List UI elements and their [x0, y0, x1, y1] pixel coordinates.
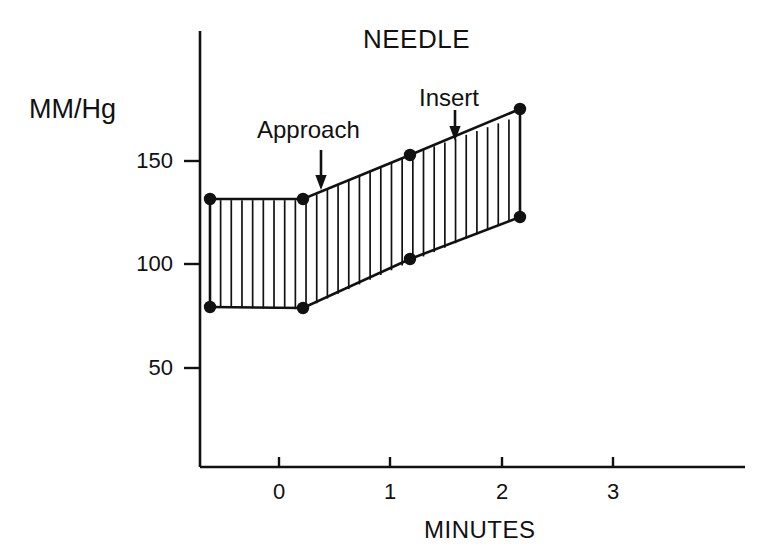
data-point-systolic-4: [514, 103, 526, 115]
y-axis-title: MM/Hg: [29, 96, 116, 123]
insert-arrow-icon: [449, 110, 460, 141]
y-axis-ticks: [184, 161, 200, 368]
chart-figure: NEEDLE MM/Hg MINUTES 150 100 50 0 1 2 3 …: [0, 0, 762, 560]
diastolic-trace: [210, 217, 520, 308]
data-point-systolic-3: [404, 149, 416, 161]
y-tick-label-100: 100: [101, 253, 173, 275]
data-point-diastolic-1: [204, 301, 216, 313]
annotation-label-approach: Approach: [257, 118, 360, 142]
chart-title: NEEDLE: [363, 26, 470, 52]
data-point-diastolic-4: [514, 211, 526, 223]
x-axis-title: MINUTES: [424, 518, 536, 542]
annotation-label-insert: Insert: [419, 86, 479, 110]
plot-area: [0, 0, 762, 560]
x-tick-label-3: 3: [583, 481, 643, 503]
x-tick-label-0: 0: [249, 481, 309, 503]
data-point-diastolic-2: [297, 302, 309, 314]
data-point-systolic-2: [297, 193, 309, 205]
data-point-diastolic-3: [404, 253, 416, 265]
x-tick-label-2: 2: [472, 481, 532, 503]
data-point-systolic-1: [204, 193, 216, 205]
y-tick-label-150: 150: [101, 150, 173, 172]
approach-arrow-icon: [315, 150, 326, 190]
x-axis-ticks: [279, 457, 613, 467]
y-tick-label-50: 50: [101, 357, 173, 379]
x-tick-label-1: 1: [360, 481, 420, 503]
